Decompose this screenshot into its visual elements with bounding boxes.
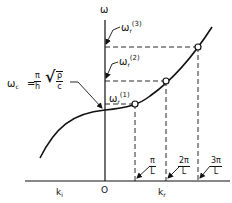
resonance-point-1: [132, 101, 138, 107]
wr1-sup: (1): [120, 91, 130, 99]
k2-num: 2π: [178, 157, 190, 167]
cutoff-fraction-pi-h: π h: [34, 72, 41, 91]
leader-arrow-wr2: [106, 62, 118, 78]
k3-num: 3π: [210, 157, 222, 167]
wr2-sup: (2): [130, 54, 140, 62]
wr1-sub: r: [117, 98, 119, 105]
leader-arrow-wc: [70, 82, 102, 108]
frac-den: h: [35, 82, 40, 91]
leader-arrow-3pi-L: [200, 166, 210, 178]
resonance-point-3: [195, 44, 201, 50]
cutoff-fraction-rho-c: ρ c: [56, 71, 63, 91]
resonance-label-3: ωr(3): [121, 22, 142, 33]
sqrt-num: ρ: [56, 72, 63, 82]
k3-den: L: [214, 167, 218, 176]
wr3-sub: r: [129, 27, 131, 34]
kr-sub: r: [163, 191, 165, 198]
ki-sub: i: [61, 191, 63, 198]
cutoff-lhs: ωc: [7, 79, 19, 89]
k2-den: L: [182, 167, 186, 176]
frac-num: π: [34, 72, 41, 82]
wavenumber-label-1: π L: [149, 157, 156, 176]
origin-label: O: [101, 186, 108, 195]
leader-arrow-wr3: [106, 27, 120, 44]
x-axis-left-label: ki: [56, 188, 63, 197]
resonance-label-2: ωr(2): [119, 56, 140, 67]
wr3-sup: (3): [132, 20, 142, 28]
cutoff-sub: c: [15, 83, 18, 90]
resonance-label-1: ωr(1): [109, 93, 130, 104]
k1-num: π: [149, 157, 156, 167]
wavenumber-label-3: 3π L: [210, 157, 222, 176]
x-axis-right-label: kr: [158, 188, 166, 197]
sqrt-sign-icon: √: [45, 69, 56, 85]
k1-den: L: [150, 167, 154, 176]
wr2-sub: r: [127, 61, 129, 68]
resonance-point-2: [163, 78, 169, 84]
y-axis-label: ω: [100, 5, 108, 15]
sqrt-den: c: [57, 82, 61, 91]
wavenumber-label-2: 2π L: [178, 157, 190, 176]
